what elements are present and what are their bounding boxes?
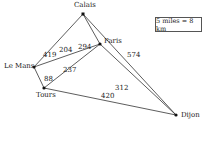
node-label-paris: Paris (104, 38, 122, 45)
node-label-calais: Calais (74, 2, 96, 9)
node-label-dijon: Dijon (181, 112, 200, 119)
edge-weight-calais-lemans: 419 (43, 52, 56, 59)
node-calais (82, 13, 85, 16)
edge-calais-lemans (34, 14, 83, 67)
node-dijon (174, 113, 177, 116)
edge-lemans-tours (34, 67, 44, 88)
edge-weight-paris-dijon: 312 (115, 85, 128, 92)
node-label-le-mans: Le Mans (4, 63, 34, 70)
edge-weight-lemans-tours: 88 (44, 76, 53, 83)
node-label-tours: Tours (36, 92, 56, 99)
scale-legend: 5 miles = 8 km (155, 17, 202, 32)
node-paris (98, 42, 101, 45)
edge-weight-tours-dijon: 420 (101, 93, 114, 100)
edge-weight-lemans-paris: 204 (59, 47, 72, 54)
edge-calais-paris (83, 14, 100, 44)
node-tours (42, 86, 45, 89)
edge-weight-calais-dijon: 574 (127, 52, 140, 59)
edge-weight-tours-paris: 237 (63, 67, 76, 74)
edge-weight-calais-paris: 294 (78, 44, 91, 51)
scale-label: 5 miles = 8 km (156, 17, 201, 33)
